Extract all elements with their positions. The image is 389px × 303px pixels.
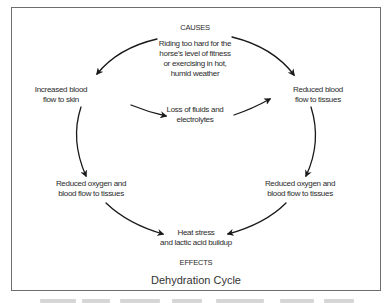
node-reduced-oxygen-left: Reduced oxygen and blood flow to tissues — [56, 179, 126, 199]
node-line: Reduced oxygen and — [265, 179, 335, 189]
node-line: blood flow to tissues — [265, 189, 335, 199]
effects-footer: EFFECTS — [180, 258, 213, 268]
node-increased-blood-flow-to-skin: Increased blood flow to skin — [35, 85, 87, 105]
node-line: Increased blood — [35, 85, 87, 95]
node-line: Reduced oxygen and — [56, 179, 126, 189]
diagram-title: Dehydration Cycle — [151, 274, 241, 286]
node-line: flow to tissues — [293, 95, 343, 105]
node-cause: Riding too hard for the horse's level of… — [159, 39, 231, 79]
node-reduced-blood-flow-to-tissues: Reduced blood flow to tissues — [293, 85, 343, 105]
causes-header: CAUSES — [180, 23, 210, 33]
node-reduced-oxygen-right: Reduced oxygen and blood flow to tissues — [265, 179, 335, 199]
arrow-right-top-to-right-bottom — [306, 107, 315, 176]
node-cause-line: Riding too hard for the — [159, 39, 231, 49]
node-line: flow to skin — [35, 95, 87, 105]
node-cause-line: humid weather — [159, 69, 231, 79]
arrow-left-top-to-middle — [131, 105, 166, 116]
node-cause-line: horse's level of fitness — [159, 49, 231, 59]
node-line: Heat stress — [160, 228, 232, 238]
arrow-cause-to-left-top — [97, 39, 157, 74]
node-line: Loss of fluids and — [167, 105, 224, 115]
arrow-cause-to-right-top — [232, 37, 294, 75]
node-cause-line: or exercising in hot, — [159, 59, 231, 69]
node-line: electrolytes — [167, 115, 224, 125]
node-line: blood flow to tissues — [56, 189, 126, 199]
node-loss-of-fluids: Loss of fluids and electrolytes — [167, 105, 224, 125]
node-heat-stress: Heat stress and lactic acid buildup — [160, 228, 232, 248]
cut-off-caption-text — [40, 297, 360, 303]
arrow-left-bottom-to-effect — [106, 203, 163, 234]
arrow-right-bottom-to-effect — [228, 203, 286, 234]
arrow-left-top-to-left-bottom — [77, 107, 86, 176]
node-line: Reduced blood — [293, 85, 343, 95]
node-line: and lactic acid buildup — [160, 238, 232, 248]
arrow-middle-to-right-top — [234, 99, 270, 115]
